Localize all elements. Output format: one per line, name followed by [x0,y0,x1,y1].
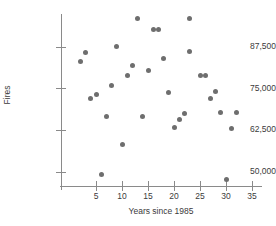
x-axis-tick-label: 15 [136,192,160,201]
x-axis-tick [226,181,227,191]
y-axis-tick [56,47,66,48]
x-axis-tick [200,181,201,191]
y-axis-tick-label: 87,500 [228,42,276,51]
data-point [146,68,151,73]
y-axis-tick-label: 50,000 [228,167,276,176]
scatter-plot-figure: 50,00062,50075,00087,500 5101520253035 F… [0,0,276,226]
x-axis-tick-label: 20 [162,192,186,201]
data-point [229,126,234,131]
y-axis-title: Fires [2,79,12,111]
data-point [125,73,130,78]
y-axis-tick [56,130,66,131]
data-point [130,63,135,68]
data-point [94,92,99,97]
data-point [187,16,192,21]
x-axis-tick [174,181,175,191]
data-point [198,73,203,78]
data-point [135,16,140,21]
x-axis-tick-label: 10 [110,192,134,201]
data-point [208,96,213,101]
x-axis-tick-label: 25 [188,192,212,201]
x-axis-tick [96,181,97,191]
x-axis-line [60,186,262,187]
data-point [88,96,93,101]
x-axis-tick [148,181,149,191]
data-point [161,56,166,61]
x-axis-tick [252,181,253,191]
x-axis-tick-label: 5 [84,192,108,201]
y-axis-tick [56,88,66,89]
data-point [234,110,239,115]
data-point [187,49,192,54]
data-point [99,172,104,177]
x-axis-title: Years since 1985 [60,206,262,216]
x-axis-tick-label: 30 [214,192,238,201]
x-axis-tick [122,181,123,191]
data-point [203,73,208,78]
data-point [218,110,223,115]
data-point [151,27,156,32]
y-axis-line [61,14,62,190]
data-point [109,83,114,88]
data-point [172,125,177,130]
y-axis-tick-label: 75,000 [228,84,276,93]
data-point [104,114,109,119]
data-point [120,142,125,147]
data-point [114,44,119,49]
data-point [156,27,161,32]
data-point [177,117,182,122]
data-point [166,90,171,95]
y-axis-tick-label: 62,500 [228,125,276,134]
y-axis-tick [56,172,66,173]
data-point [83,50,88,55]
data-point [213,89,218,94]
data-point [78,59,83,64]
data-point [182,111,187,116]
x-axis-tick-label: 35 [240,192,264,201]
data-point [224,177,229,182]
data-point [140,114,145,119]
